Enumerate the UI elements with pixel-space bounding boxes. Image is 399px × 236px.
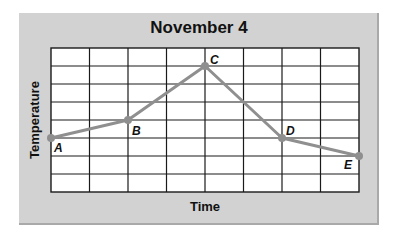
point-label-d: D: [286, 124, 295, 138]
plot-area: ABCDE: [0, 0, 399, 236]
point-label-c: C: [210, 53, 219, 67]
data-point-d: [278, 134, 286, 142]
data-point-b: [124, 116, 132, 124]
point-label-b: B: [132, 124, 141, 138]
data-point-c: [201, 62, 209, 70]
point-label-a: A: [53, 141, 63, 155]
point-label-e: E: [344, 158, 353, 172]
data-point-e: [355, 152, 363, 160]
